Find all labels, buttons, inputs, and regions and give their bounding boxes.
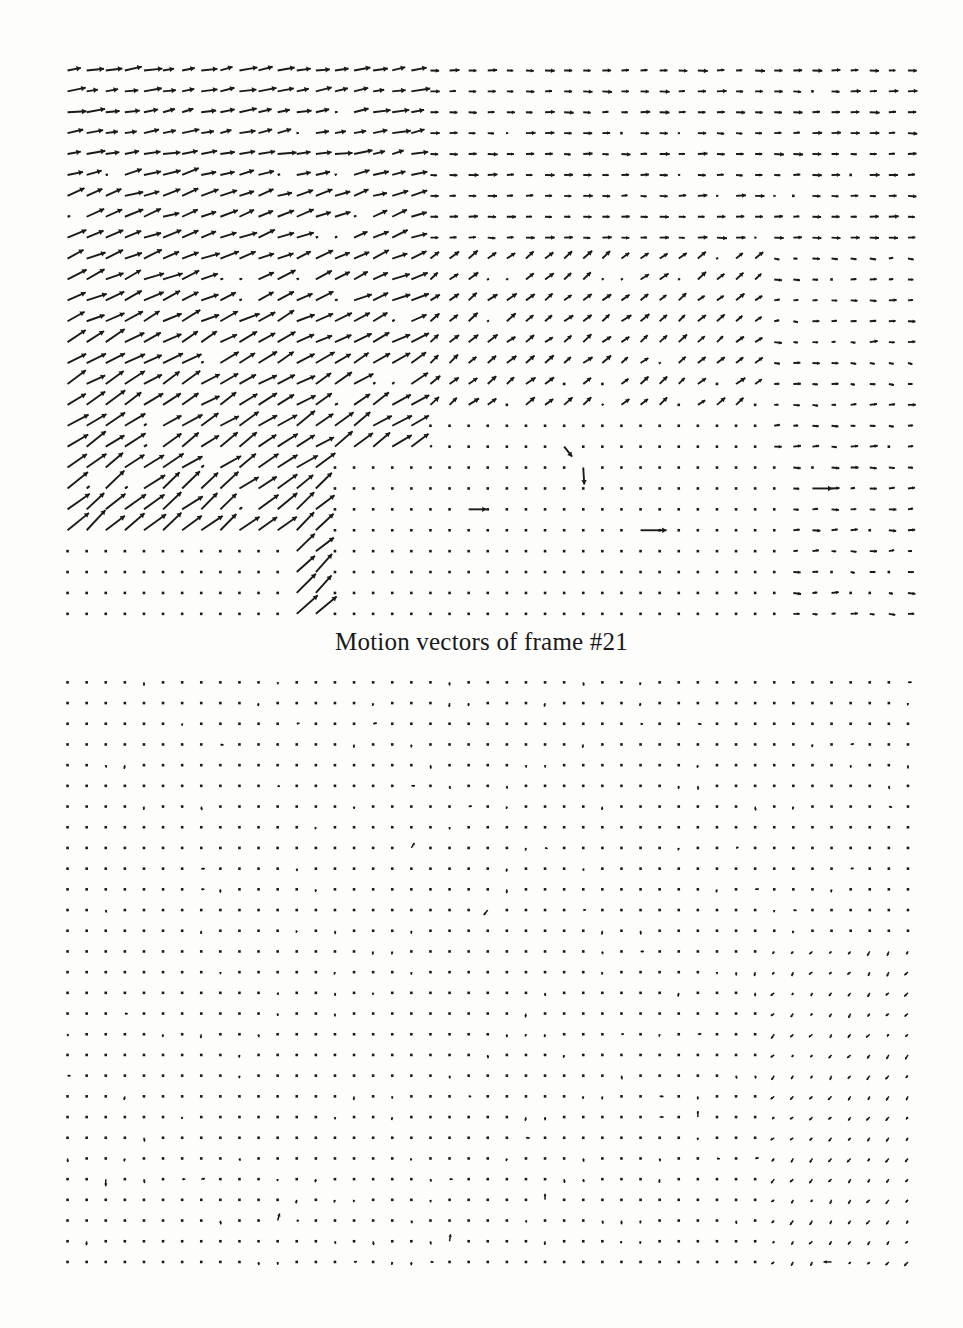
quiver-plot-frame-34 — [58, 672, 920, 1272]
figure-frame-21: Motion vectors of frame #21 — [0, 0, 963, 672]
figure-frame-34: Motion vectors of frame #34 — [0, 666, 963, 1328]
document-page: Motion vectors of frame #21 Motion vecto… — [0, 0, 963, 1328]
motion-vector-field-frame-34 — [58, 672, 920, 1272]
figure-caption-frame-21: Motion vectors of frame #21 — [0, 628, 963, 656]
quiver-plot-frame-21 — [58, 60, 920, 625]
motion-vector-field-frame-21 — [58, 60, 920, 625]
